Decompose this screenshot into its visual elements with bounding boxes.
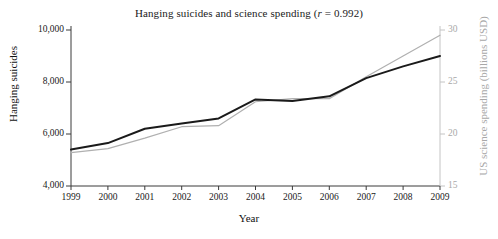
y-axis-right-title: US science spending (billions USD)	[477, 6, 489, 186]
x-axis-title: Year	[0, 212, 498, 224]
x-tick-label-1999: 1999	[51, 192, 91, 202]
x-tick-label-2007: 2007	[346, 192, 386, 202]
x-tick-label-2001: 2001	[125, 192, 165, 202]
y-left-tick-label-10000: 10,000	[10, 24, 64, 34]
x-tick-label-2008: 2008	[383, 192, 423, 202]
chart-figure: Hanging suicides and science spending (r…	[0, 0, 498, 239]
x-tick-label-2002: 2002	[162, 192, 202, 202]
line-hanging-suicides	[71, 56, 440, 150]
y-right-tick-label-30: 30	[448, 24, 472, 34]
y-left-tick-label-6000: 6,000	[10, 128, 64, 138]
y-right-tick-label-25: 25	[448, 76, 472, 86]
axes-group	[66, 26, 445, 190]
series-lines	[71, 35, 440, 153]
x-tick-label-2009: 2009	[420, 192, 460, 202]
x-tick-label-2003: 2003	[199, 192, 239, 202]
x-tick-label-2006: 2006	[309, 192, 349, 202]
plot-area	[0, 0, 498, 239]
x-tick-label-2005: 2005	[272, 192, 312, 202]
y-right-tick-label-20: 20	[448, 128, 472, 138]
y-right-tick-label-15: 15	[448, 180, 472, 190]
y-left-tick-label-4000: 4,000	[10, 180, 64, 190]
x-tick-label-2004: 2004	[236, 192, 276, 202]
x-tick-label-2000: 2000	[88, 192, 128, 202]
y-left-tick-label-8000: 8,000	[10, 76, 64, 86]
x-tick-marks	[71, 186, 440, 190]
